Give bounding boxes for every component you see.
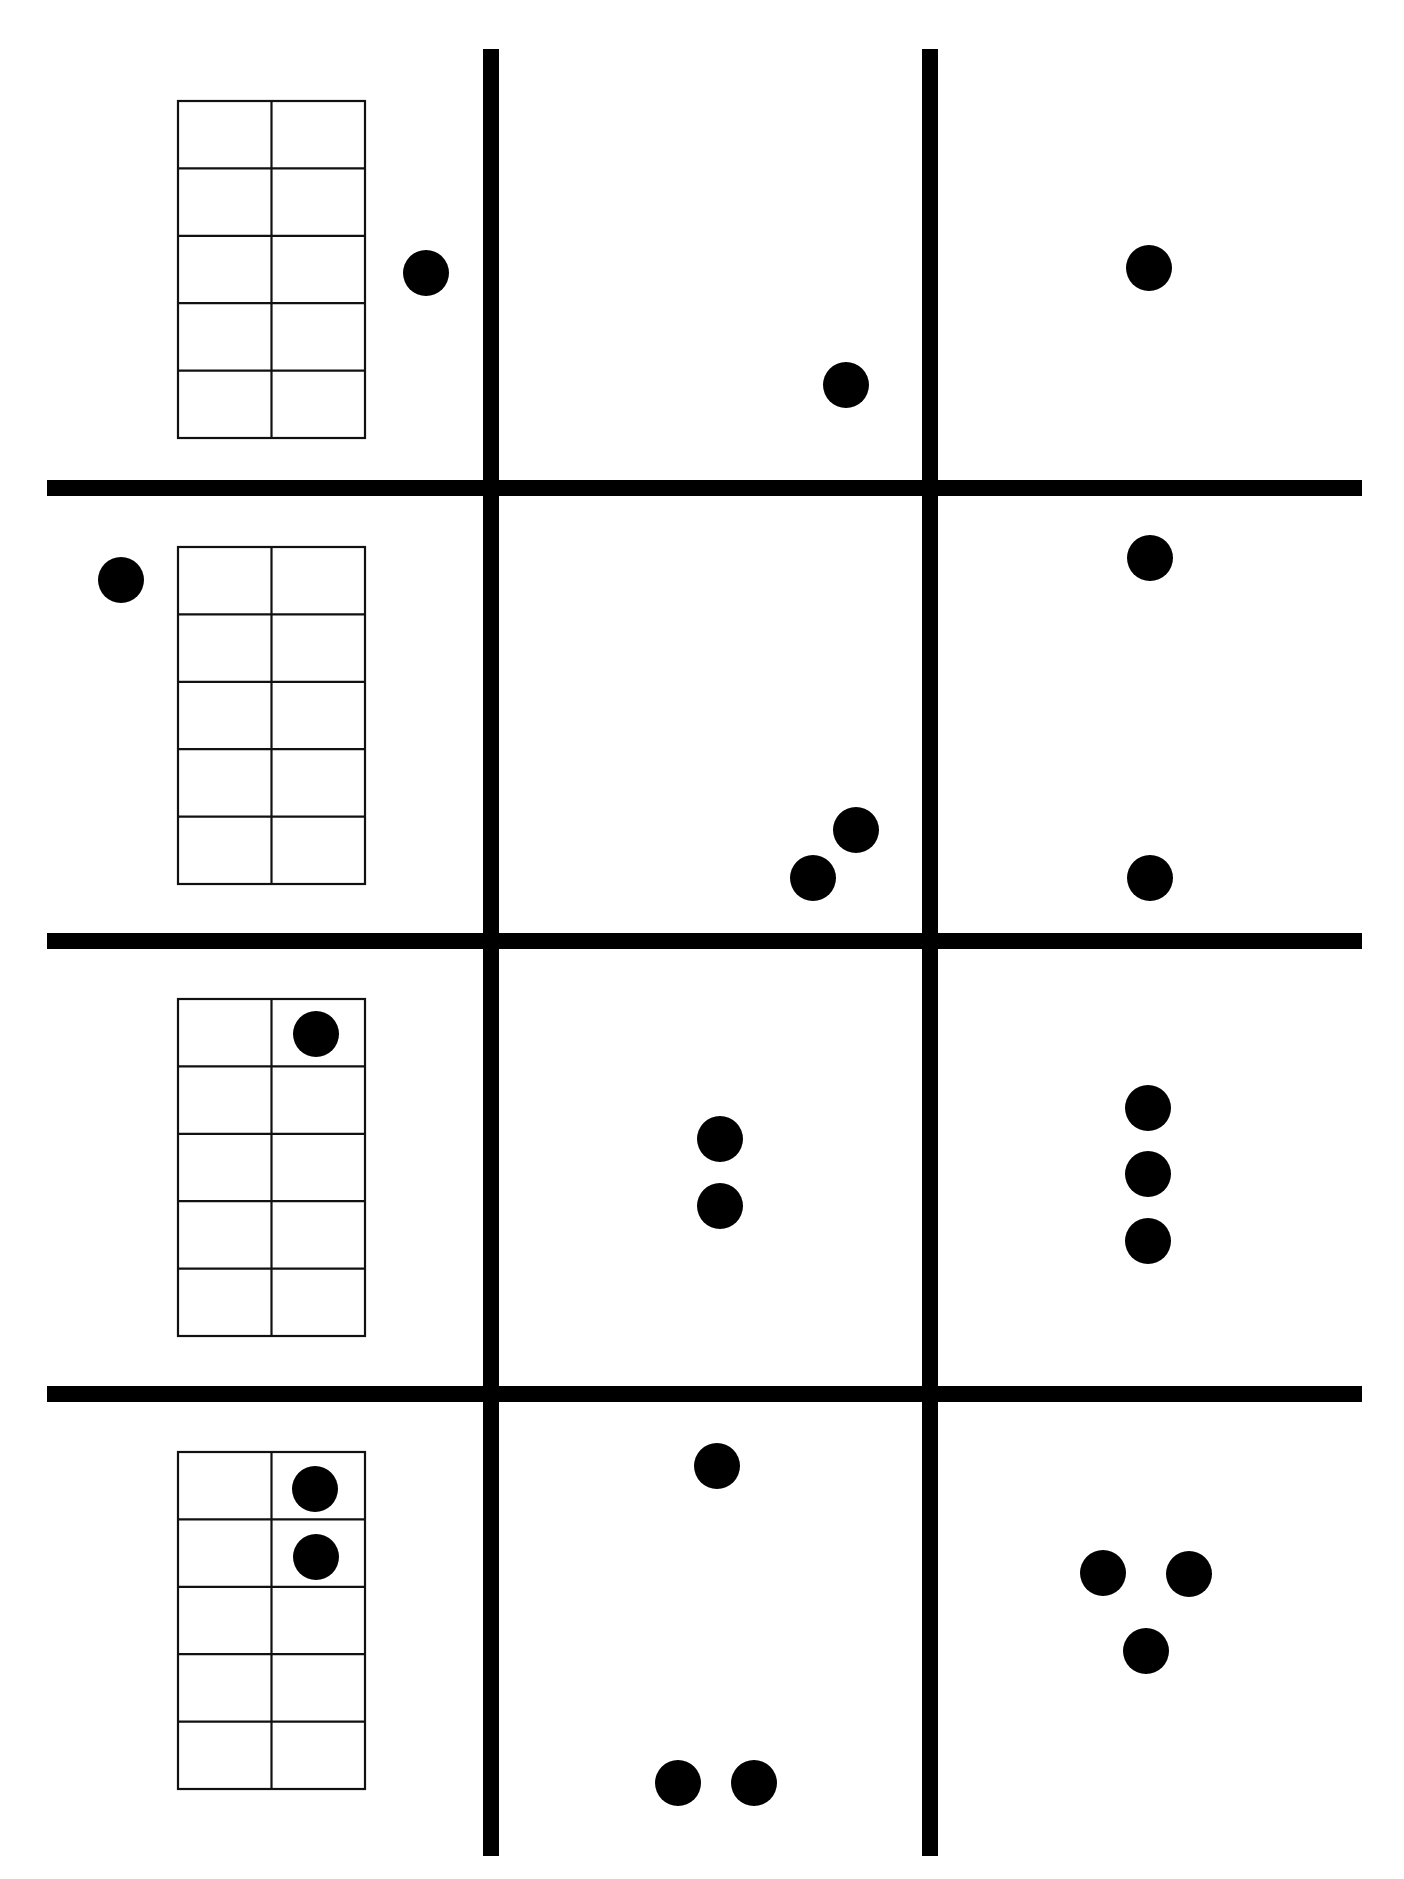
counter-dot — [823, 362, 869, 408]
counter-dot — [292, 1466, 338, 1512]
counter-dot — [833, 807, 879, 853]
worksheet: Ten-frame and dot-pattern matching grid — [0, 0, 1404, 1879]
grid-cells — [47, 49, 1362, 1856]
counter-dot — [790, 855, 836, 901]
counter-dot — [1127, 855, 1173, 901]
counter-dot — [1166, 1551, 1212, 1597]
grid-cell-r2-c1 — [47, 488, 491, 941]
counter-dot — [1123, 1628, 1169, 1674]
counter-dot — [293, 1534, 339, 1580]
counter-dot — [697, 1183, 743, 1229]
counter-dot — [293, 1011, 339, 1057]
counter-dot — [403, 250, 449, 296]
counter-dot — [697, 1116, 743, 1162]
grid-cell-r2-c2 — [491, 488, 930, 941]
counter-dot — [98, 557, 144, 603]
grid-canvas — [0, 0, 1404, 1879]
grid-cell-r4-c1 — [47, 1394, 491, 1856]
counter-dot — [731, 1760, 777, 1806]
counter-dot — [1125, 1218, 1171, 1264]
counter-dot — [694, 1443, 740, 1489]
grid-cell-r3-c2 — [491, 941, 930, 1394]
counter-dot — [1125, 1085, 1171, 1131]
counter-dot — [1126, 245, 1172, 291]
grid-cell-r4-c3 — [930, 1394, 1362, 1856]
counter-dot — [1125, 1151, 1171, 1197]
counter-dot — [1080, 1550, 1126, 1596]
counter-dot — [655, 1760, 701, 1806]
grid-cell-r1-c2 — [491, 49, 930, 488]
counter-dot — [1127, 535, 1173, 581]
grid-cell-r3-c1 — [47, 941, 491, 1394]
